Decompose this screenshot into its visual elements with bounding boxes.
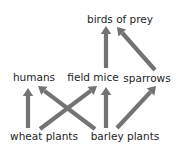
node-label-birds-of-prey: birds of prey [87,14,153,25]
arrow-sparrows-to-birds-of-prey [122,33,155,70]
node-label-sparrows: sparrows [123,73,170,84]
node-label-humans: humans [13,72,55,83]
node-label-wheat-plants: wheat plants [10,131,78,142]
arrowhead-icon [23,88,33,96]
arrow-barley-plants-to-humans [44,91,95,129]
arrowhead-icon [101,26,111,34]
arrow-barley-plants-to-sparrows [117,92,151,128]
arrow-wheat-plants-to-field-mice [40,91,91,129]
node-label-barley-plants: barley plants [91,131,160,142]
arrowhead-icon [101,87,111,95]
node-label-field-mice: field mice [67,72,118,83]
